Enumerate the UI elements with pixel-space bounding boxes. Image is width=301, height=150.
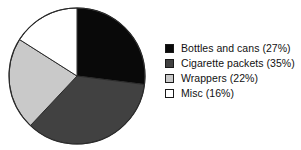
legend-label-wrappers: Wrappers (22%) bbox=[181, 73, 258, 84]
pie-slice-group bbox=[9, 8, 145, 144]
legend-swatch-bottles-and-cans bbox=[165, 44, 174, 53]
pie-slice-bottles-and-cans[interactable] bbox=[77, 8, 145, 85]
pie-chart-plot-area bbox=[0, 0, 156, 150]
pie-chart-figure: Bottles and cans (27%) Cigarette packets… bbox=[0, 0, 301, 150]
legend-label-bottles-and-cans: Bottles and cans (27%) bbox=[181, 43, 291, 54]
legend-label-misc: Misc (16%) bbox=[181, 88, 234, 99]
legend-swatch-cigarette-packets bbox=[165, 59, 174, 68]
legend-item-bottles-and-cans[interactable]: Bottles and cans (27%) bbox=[165, 41, 301, 56]
legend-swatch-wrappers bbox=[165, 74, 174, 83]
legend-item-misc[interactable]: Misc (16%) bbox=[165, 86, 301, 101]
pie-chart-svg bbox=[0, 0, 156, 150]
legend-swatch-misc bbox=[165, 89, 174, 98]
legend-item-cigarette-packets[interactable]: Cigarette packets (35%) bbox=[165, 56, 301, 71]
legend-item-wrappers[interactable]: Wrappers (22%) bbox=[165, 71, 301, 86]
legend-label-cigarette-packets: Cigarette packets (35%) bbox=[181, 58, 295, 69]
chart-legend: Bottles and cans (27%) Cigarette packets… bbox=[165, 41, 301, 101]
